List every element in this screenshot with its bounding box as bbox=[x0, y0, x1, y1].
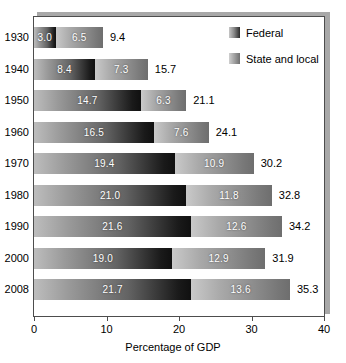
y-axis-label: 1930 bbox=[5, 32, 29, 43]
bar-row[interactable]: 21.612.634.2 bbox=[34, 216, 324, 237]
bar-segment-value-federal: 14.7 bbox=[34, 90, 141, 111]
x-tick-label: 0 bbox=[31, 323, 37, 335]
legend-item-federal: Federal bbox=[229, 26, 319, 39]
bar-segment-state-and-local[interactable]: 7.3 bbox=[95, 59, 148, 80]
bar-segment-federal[interactable]: 16.5 bbox=[34, 122, 154, 143]
bar-segment-federal[interactable]: 21.6 bbox=[34, 216, 191, 237]
bar-total-value: 31.9 bbox=[265, 248, 293, 269]
bar-segment-value-federal: 21.6 bbox=[34, 216, 191, 237]
bar-total-value: 24.1 bbox=[209, 122, 237, 143]
bar-total-value: 34.2 bbox=[282, 216, 310, 237]
x-tick-mark bbox=[107, 317, 108, 321]
bar-row[interactable]: 21.713.635.3 bbox=[34, 279, 324, 300]
legend-item-state-and-local: State and local bbox=[229, 52, 319, 65]
bar-row[interactable]: 16.57.624.1 bbox=[34, 122, 324, 143]
y-axis-category-labels: 193019401950196019701980199020002008 bbox=[0, 16, 31, 317]
bar-total-value: 21.1 bbox=[186, 90, 214, 111]
bar-segment-value-state-and-local: 6.3 bbox=[141, 90, 187, 111]
bar-row[interactable]: 21.011.832.8 bbox=[34, 185, 324, 206]
legend-label-federal: Federal bbox=[246, 27, 283, 39]
y-axis-label: 1940 bbox=[5, 64, 29, 75]
bar-segment-value-federal: 21.7 bbox=[34, 279, 191, 300]
x-axis-ticks: 010203040 bbox=[33, 317, 325, 341]
y-axis-label: 1970 bbox=[5, 158, 29, 169]
y-axis-label: 2000 bbox=[5, 253, 29, 264]
bar-segment-value-federal: 3.0 bbox=[34, 27, 56, 48]
bar-segment-value-state-and-local: 13.6 bbox=[191, 279, 290, 300]
bar-segment-state-and-local[interactable]: 12.9 bbox=[172, 248, 266, 269]
bar-total-value: 15.7 bbox=[148, 59, 176, 80]
bar-segment-value-state-and-local: 12.6 bbox=[191, 216, 282, 237]
bar-segment-value-federal: 19.0 bbox=[34, 248, 172, 269]
bar-segment-state-and-local[interactable]: 11.8 bbox=[186, 185, 272, 206]
x-tick-label: 10 bbox=[100, 323, 112, 335]
bar-total-value: 32.8 bbox=[272, 185, 300, 206]
bar-row[interactable]: 14.76.321.1 bbox=[34, 90, 324, 111]
x-tick-mark bbox=[34, 317, 35, 321]
x-tick-mark bbox=[252, 317, 253, 321]
bar-segment-value-state-and-local: 6.5 bbox=[56, 27, 103, 48]
y-axis-label: 1980 bbox=[5, 190, 29, 201]
bar-segment-value-state-and-local: 11.8 bbox=[186, 185, 272, 206]
bar-segment-value-federal: 8.4 bbox=[34, 59, 95, 80]
bar-segment-state-and-local[interactable]: 12.6 bbox=[191, 216, 282, 237]
bar-segment-value-state-and-local: 12.9 bbox=[172, 248, 266, 269]
bar-segment-state-and-local[interactable]: 6.5 bbox=[56, 27, 103, 48]
bar-total-value: 9.4 bbox=[103, 27, 125, 48]
bar-total-value: 30.2 bbox=[254, 153, 282, 174]
bar-segment-federal[interactable]: 8.4 bbox=[34, 59, 95, 80]
x-tick-mark bbox=[324, 317, 325, 321]
bar-segment-federal[interactable]: 3.0 bbox=[34, 27, 56, 48]
bar-segment-federal[interactable]: 21.7 bbox=[34, 279, 191, 300]
x-axis-title: Percentage of GDP bbox=[0, 341, 346, 353]
x-tick-label: 20 bbox=[173, 323, 185, 335]
bar-segment-federal[interactable]: 21.0 bbox=[34, 185, 186, 206]
bar-segment-value-federal: 16.5 bbox=[34, 122, 154, 143]
bar-segment-value-federal: 19.4 bbox=[34, 153, 175, 174]
legend-swatch-federal-icon bbox=[229, 27, 240, 38]
x-tick-label: 30 bbox=[245, 323, 257, 335]
x-tick-mark bbox=[179, 317, 180, 321]
y-axis-label: 2008 bbox=[5, 284, 29, 295]
bar-segment-federal[interactable]: 19.0 bbox=[34, 248, 172, 269]
bar-row[interactable]: 19.410.930.2 bbox=[34, 153, 324, 174]
bar-segment-federal[interactable]: 19.4 bbox=[34, 153, 175, 174]
bar-segment-value-state-and-local: 7.3 bbox=[95, 59, 148, 80]
bar-row[interactable]: 19.012.931.9 bbox=[34, 248, 324, 269]
bar-segment-value-federal: 21.0 bbox=[34, 185, 186, 206]
bar-segment-federal[interactable]: 14.7 bbox=[34, 90, 141, 111]
bar-segment-state-and-local[interactable]: 6.3 bbox=[141, 90, 187, 111]
bar-segment-value-state-and-local: 7.6 bbox=[154, 122, 209, 143]
x-tick-label: 40 bbox=[318, 323, 330, 335]
legend-label-state-and-local: State and local bbox=[246, 53, 319, 65]
chart-legend: Federal State and local bbox=[229, 26, 319, 78]
y-axis-label: 1950 bbox=[5, 95, 29, 106]
y-axis-label: 1990 bbox=[5, 221, 29, 232]
bar-total-value: 35.3 bbox=[290, 279, 318, 300]
bar-segment-value-state-and-local: 10.9 bbox=[175, 153, 254, 174]
bar-segment-state-and-local[interactable]: 7.6 bbox=[154, 122, 209, 143]
bar-segment-state-and-local[interactable]: 10.9 bbox=[175, 153, 254, 174]
y-axis-label: 1960 bbox=[5, 127, 29, 138]
bar-segment-state-and-local[interactable]: 13.6 bbox=[191, 279, 290, 300]
stacked-bar-chart: 193019401950196019701980199020002008 3.0… bbox=[0, 0, 346, 363]
legend-swatch-state-and-local-icon bbox=[229, 53, 240, 64]
